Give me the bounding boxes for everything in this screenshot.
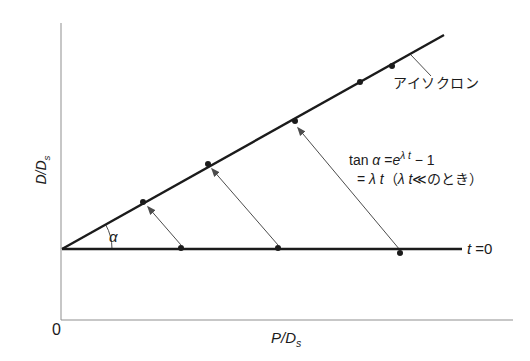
- t-zero-label: t =0: [467, 240, 492, 257]
- isochron-figure: D/Ds 0 P/Ds t =0 アイソクロン α tan α =eλ t − …: [0, 0, 530, 361]
- isochron-data-point: [140, 199, 146, 205]
- formula-line-2: = λ t（λ t≪のとき）: [357, 170, 483, 189]
- isochron-label: アイソクロン: [393, 72, 479, 92]
- isochron-data-point: [205, 161, 211, 167]
- origin-label: 0: [52, 321, 61, 339]
- formula-annotation: tan α =eλ t − 1 = λ t（λ t≪のとき）: [349, 146, 483, 189]
- t-zero-data-point: [275, 245, 281, 251]
- y-axis-subscript: s: [41, 155, 52, 160]
- x-axis-label: P/Ds: [271, 329, 301, 349]
- isochron-data-point: [357, 79, 363, 85]
- isochron-data-point: [389, 63, 395, 69]
- t-zero-data-point: [178, 245, 184, 251]
- alpha-angle-label: α: [109, 228, 118, 245]
- growth-arrow: [212, 169, 278, 245]
- t-zero-data-point: [397, 250, 403, 256]
- x-axis-subscript: s: [296, 337, 301, 349]
- y-axis-label: D/Ds: [33, 120, 51, 220]
- growth-arrow: [148, 207, 181, 245]
- formula-line-1: tan α =eλ t − 1: [349, 146, 483, 170]
- isochron-data-point: [292, 118, 298, 124]
